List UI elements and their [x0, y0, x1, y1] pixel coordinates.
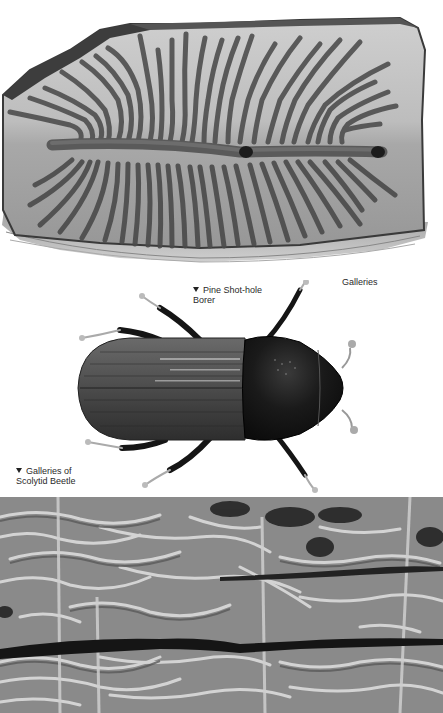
- caption-beetle-line1: Pine Shot-hole: [203, 285, 262, 295]
- caption-scolytid-galleries: Galleries of Scolytid Beetle: [16, 466, 76, 486]
- scolytid-galleries-photo: [0, 497, 443, 713]
- beetle-illustration: [60, 280, 380, 495]
- caption-pine-shot-hole-borer: Pine Shot-hole Borer: [193, 285, 262, 305]
- caption-scolytid-line1: Galleries of: [26, 466, 72, 476]
- down-triangle-icon: [16, 468, 22, 473]
- down-triangle-icon: [193, 287, 199, 292]
- caption-scolytid-line2: Scolytid Beetle: [16, 476, 76, 486]
- gallery-bark-illustration: [0, 0, 443, 275]
- caption-beetle-line2: Borer: [193, 295, 262, 305]
